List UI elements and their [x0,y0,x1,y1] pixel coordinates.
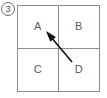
grid-cell-label-d: D [75,64,83,75]
grid-cell-label-c: C [34,64,42,75]
grid-cell-top-right[interactable]: B [59,6,100,49]
grid-cell-bottom-right[interactable]: D [59,49,100,92]
grid-cell-bottom-left[interactable]: C [18,49,59,92]
circled-number-marker-label: 3 [5,5,10,14]
circled-number-marker: 3 [1,2,15,16]
quadrant-grid: A B C D [17,5,100,92]
grid-cell-label-a: A [34,21,41,32]
grid-cell-top-left[interactable]: A [18,6,59,49]
quadrant-diagram: 3 A B C D [0,0,107,98]
grid-cell-label-b: B [75,21,82,32]
